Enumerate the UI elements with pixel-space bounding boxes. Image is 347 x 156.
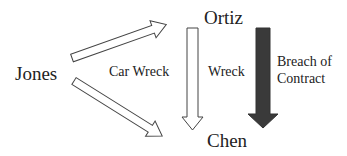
arrow-ortiz-to-chen-wreck [182,28,203,130]
node-ortiz: Ortiz [204,8,243,27]
arrow-jones-to-chen [69,73,167,143]
arrow-jones-to-ortiz [69,16,169,66]
label-breach-line2: Contract [277,72,325,86]
label-wreck: Wreck [208,65,245,79]
label-breach-line1: Breach of [277,55,332,69]
label-car-wreck: Car Wreck [109,65,169,79]
node-jones: Jones [15,64,57,83]
node-chen: Chen [207,131,247,150]
arrow-ortiz-to-chen-breach [248,28,278,128]
diagram-canvas: Jones Ortiz Chen Car Wreck Wreck Breach … [0,0,347,156]
